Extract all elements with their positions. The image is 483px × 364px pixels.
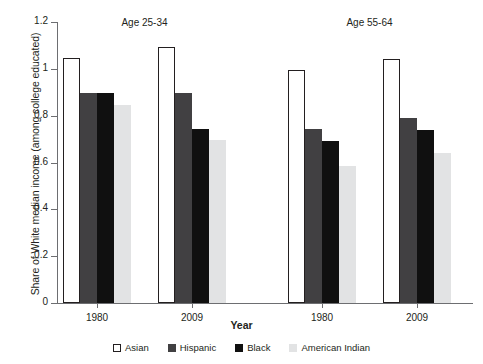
x-tick-mark [322, 303, 323, 308]
x-tick-label-3: 2009 [406, 312, 428, 323]
legend-swatch-amerind-icon [289, 344, 297, 352]
x-tick-label-2: 1980 [311, 312, 333, 323]
legend-swatch-black-icon [235, 344, 243, 352]
panel-title-1: Age 55-64 [346, 17, 392, 28]
bar-black-2 [322, 141, 339, 303]
y-tick-mark [51, 256, 57, 257]
y-axis-line [57, 22, 58, 303]
bar-hispanic-0 [80, 93, 97, 303]
legend-item-amerind[interactable]: American Indian [289, 342, 370, 353]
y-tick-label: 0.4 [34, 202, 48, 213]
y-tick-label: 1 [42, 62, 48, 73]
y-tick-mark [51, 116, 57, 117]
bar-amerind-1 [209, 140, 226, 303]
plot-area: 00.20.40.60.811.21980200919802009Age 25-… [57, 22, 473, 303]
x-tick-mark [192, 303, 193, 308]
legend-item-asian[interactable]: Asian [113, 342, 149, 353]
panel-title-0: Age 25-34 [121, 17, 167, 28]
bar-amerind-3 [434, 153, 451, 303]
legend-label: Asian [125, 342, 149, 353]
x-tick-mark [97, 303, 98, 308]
x-tick-mark [417, 303, 418, 308]
y-tick-label: 0.2 [34, 249, 48, 260]
bar-hispanic-1 [175, 93, 192, 303]
legend-item-black[interactable]: Black [235, 342, 270, 353]
y-tick-label: 1.2 [34, 15, 48, 26]
y-tick-label: 0.6 [34, 156, 48, 167]
bar-asian-3 [383, 59, 400, 303]
bar-asian-0 [63, 58, 80, 303]
y-tick-mark [51, 209, 57, 210]
x-tick-label-0: 1980 [86, 312, 108, 323]
legend-label: American Indian [301, 342, 370, 353]
y-tick-label: 0 [42, 296, 48, 307]
bar-hispanic-3 [400, 118, 417, 303]
y-tick-mark [51, 303, 57, 304]
bar-black-0 [97, 93, 114, 303]
bar-asian-1 [158, 47, 175, 303]
bar-amerind-2 [339, 166, 356, 303]
legend-swatch-asian-icon [113, 344, 121, 352]
bar-amerind-0 [114, 105, 131, 303]
x-tick-label-1: 2009 [181, 312, 203, 323]
legend-label: Black [247, 342, 270, 353]
y-tick-label: 0.8 [34, 109, 48, 120]
bar-hispanic-2 [305, 129, 322, 303]
chart-legend: AsianHispanicBlackAmerican Indian [0, 342, 483, 353]
y-tick-mark [51, 22, 57, 23]
bar-black-1 [192, 129, 209, 303]
bar-black-3 [417, 130, 434, 303]
legend-label: Hispanic [180, 342, 216, 353]
legend-item-hispanic[interactable]: Hispanic [168, 342, 216, 353]
legend-swatch-hispanic-icon [168, 344, 176, 352]
y-tick-mark [51, 163, 57, 164]
bar-chart: Share of White median income (among coll… [0, 0, 483, 364]
x-axis-line [57, 303, 473, 304]
bar-asian-2 [288, 70, 305, 303]
y-tick-mark [51, 69, 57, 70]
